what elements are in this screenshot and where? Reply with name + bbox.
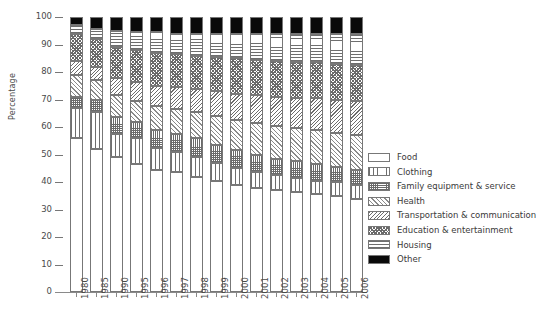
bar-1980[interactable] [70, 17, 83, 292]
legend-item-food[interactable]: Food [368, 150, 536, 165]
legend-item-health[interactable]: Health [368, 194, 536, 209]
chart-legend: FoodClothingFamily equipment & serviceHe… [368, 150, 536, 267]
x-tick-mark [276, 292, 277, 297]
bar-segment [150, 86, 163, 107]
bar-segment [70, 25, 83, 33]
bar-1997[interactable] [170, 17, 183, 292]
bar-segment [70, 61, 83, 75]
bar-segment [330, 64, 343, 100]
bar-segment [70, 138, 83, 292]
bar-2004[interactable] [310, 17, 323, 292]
y-axis-label: Percentage [8, 73, 17, 120]
bar-segment [190, 177, 203, 293]
legend-swatch-icon [368, 240, 390, 249]
bar-1998[interactable] [190, 17, 203, 292]
bar-segment [210, 163, 223, 181]
bar-segment [90, 29, 103, 39]
bar-1999[interactable] [210, 17, 223, 292]
bar-segment [270, 175, 283, 190]
y-tick-mark [55, 182, 63, 183]
legend-item-other[interactable]: Other [368, 252, 536, 267]
legend-label: Housing [397, 241, 432, 250]
legend-item-housing[interactable]: Housing [368, 238, 536, 253]
bar-segment [230, 17, 243, 34]
bar-segment [350, 34, 363, 66]
bar-segment [110, 117, 123, 134]
y-tick-mark [55, 72, 63, 73]
legend-swatch-icon [368, 226, 390, 235]
legend-swatch-icon [368, 167, 390, 176]
legend-label: Education & entertainment [397, 226, 513, 235]
bar-segment [90, 112, 103, 149]
bar-segment [290, 161, 303, 178]
y-tick-value: 10 [41, 260, 52, 269]
bar-segment [190, 17, 203, 34]
bar-segment [210, 17, 223, 34]
bar-1990[interactable] [110, 17, 123, 292]
bar-segment [250, 155, 263, 173]
x-tick-label: 1998 [200, 277, 210, 299]
legend-label: Food [397, 153, 417, 162]
bar-segment [210, 145, 223, 163]
bar-segment [230, 150, 243, 168]
bar-segment [350, 170, 363, 185]
bar-segment [310, 181, 323, 195]
bar-segment [330, 17, 343, 34]
bar-2001[interactable] [250, 17, 263, 292]
y-tick-mark [55, 155, 63, 156]
x-tick-mark [356, 292, 357, 297]
legend-item-family-equipment-service[interactable]: Family equipment & service [368, 179, 536, 194]
bar-1995[interactable] [130, 17, 143, 292]
bar-1996[interactable] [150, 17, 163, 292]
bar-segment [350, 185, 363, 199]
bar-2000[interactable] [230, 17, 243, 292]
x-tick-label: 2005 [340, 277, 350, 299]
bar-segment [190, 56, 203, 89]
x-tick-label: 2001 [260, 277, 270, 299]
x-tick-mark [156, 292, 157, 297]
x-tick-label: 2004 [320, 277, 330, 299]
x-tick-mark [236, 292, 237, 297]
x-tick-mark [176, 292, 177, 297]
bar-segment [70, 75, 83, 97]
x-tick-label: 2006 [360, 277, 370, 299]
x-tick-label: 1997 [180, 277, 190, 299]
bar-2006[interactable] [350, 17, 363, 292]
legend-item-transportation-communication[interactable]: Transportation & communication [368, 208, 536, 223]
bar-segment [70, 108, 83, 138]
bar-segment [150, 32, 163, 53]
x-tick-mark [136, 292, 137, 297]
bar-segment [110, 31, 123, 48]
y-tick-value: 80 [41, 67, 52, 76]
bar-segment [70, 97, 83, 108]
x-tick-mark [76, 292, 77, 297]
bar-segment [90, 39, 103, 67]
bar-segment [230, 94, 243, 120]
legend-item-education-entertainment[interactable]: Education & entertainment [368, 223, 536, 238]
legend-item-clothing[interactable]: Clothing [368, 165, 536, 180]
bar-segment [170, 87, 183, 109]
bar-segment [270, 17, 283, 34]
bar-2003[interactable] [290, 17, 303, 292]
bar-segment [150, 130, 163, 148]
bar-segment [150, 106, 163, 129]
x-tick-mark [116, 292, 117, 297]
bar-segment [170, 54, 183, 87]
bar-2005[interactable] [330, 17, 343, 292]
bar-1985[interactable] [90, 17, 103, 292]
bar-segment [150, 170, 163, 292]
x-tick-mark [96, 292, 97, 297]
bar-2002[interactable] [270, 17, 283, 292]
bar-segment [110, 95, 123, 117]
bar-segment [290, 62, 303, 98]
legend-label: Transportation & communication [397, 211, 536, 220]
bar-segment [130, 17, 143, 32]
bar-segment [270, 97, 283, 126]
x-tick-mark [296, 292, 297, 297]
bar-segment [330, 167, 343, 182]
y-tick-mark [55, 17, 63, 18]
bar-segment [190, 112, 203, 138]
legend-swatch-icon [368, 197, 390, 206]
legend-label: Family equipment & service [397, 182, 516, 191]
